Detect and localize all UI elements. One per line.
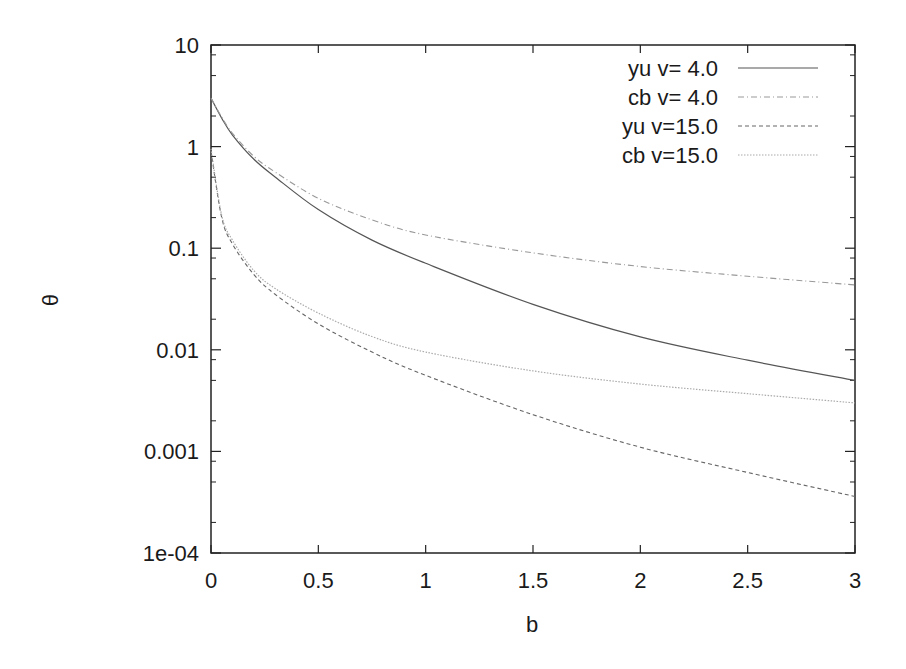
- y-tick-label: 0.1: [168, 236, 199, 261]
- y-tick-label: 1e-04: [143, 541, 199, 566]
- x-tick-label: 0.5: [303, 568, 334, 593]
- plot-border: [211, 45, 855, 553]
- x-tick-label: 0: [205, 568, 217, 593]
- plot-frame: [211, 45, 855, 553]
- series-line: [211, 151, 855, 496]
- series-line: [211, 98, 855, 285]
- x-tick-label: 2.5: [732, 568, 763, 593]
- x-tick-label: 2: [634, 568, 646, 593]
- legend-label: yu v= 4.0: [628, 56, 718, 81]
- series-line: [211, 98, 855, 380]
- legend-label: cb v= 4.0: [628, 85, 718, 110]
- y-tick-label: 0.01: [156, 338, 199, 363]
- y-axis-label: θ: [38, 294, 63, 306]
- y-tick-label: 0.001: [144, 439, 199, 464]
- x-tick-label: 1: [420, 568, 432, 593]
- line-chart: 00.511.522.531e-040.0010.010.1110 yu v= …: [0, 0, 906, 669]
- x-tick-label: 3: [849, 568, 861, 593]
- y-tick-label: 1: [187, 135, 199, 160]
- series-line: [211, 149, 855, 403]
- legend-label: cb v=15.0: [622, 143, 718, 168]
- x-tick-label: 1.5: [518, 568, 549, 593]
- legend: yu v= 4.0cb v= 4.0yu v=15.0cb v=15.0: [622, 56, 818, 168]
- y-tick-label: 10: [175, 33, 199, 58]
- series-lines: [211, 98, 855, 496]
- axis-ticks: 00.511.522.531e-040.0010.010.1110: [143, 33, 861, 593]
- legend-label: yu v=15.0: [622, 114, 718, 139]
- x-axis-label: b: [526, 612, 538, 637]
